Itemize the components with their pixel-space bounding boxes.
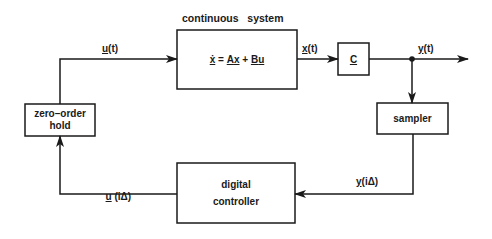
eq-B: B [251, 53, 258, 66]
signal-x-t: x(t) [302, 43, 318, 55]
sampler-label-wrap: sampler [377, 103, 448, 134]
signal-u-t-arg: (t) [108, 43, 118, 54]
signal-y-sampled-arg: (iΔ) [362, 176, 379, 187]
zoh-label-wrap: zero–order hold [25, 104, 95, 136]
controller-label-line2: controller [213, 193, 259, 210]
output-matrix-label-wrap: C [338, 43, 369, 75]
eq-equals: = [215, 53, 226, 66]
eq-plus: + [240, 53, 251, 66]
y-sampled-arrow [295, 134, 413, 194]
output-matrix-label: C [350, 53, 357, 66]
signal-u-sampled-arg: (iΔ) [112, 191, 131, 202]
plant-equation: ẋ = A x + B u [177, 30, 297, 89]
plant-title: continuous system [182, 12, 284, 24]
zoh-label-line2: hold [49, 120, 70, 132]
controller-label-line1: digital [221, 176, 250, 193]
u-t-arrow [60, 59, 177, 104]
sampler-label: sampler [393, 112, 431, 125]
signal-x-t-arg: (t) [308, 43, 318, 54]
signal-u-t: u(t) [102, 43, 118, 55]
branch-point [409, 56, 415, 62]
signal-u-sampled: u (iΔ) [100, 179, 131, 203]
signal-y-t: y(t) [418, 43, 434, 55]
signal-y-t-arg: (t) [424, 43, 434, 54]
controller-label-wrap: digital controller [177, 163, 295, 223]
eq-A: A [227, 53, 234, 66]
signal-y-sampled: y(iΔ) [356, 176, 378, 188]
zoh-label-line1: zero–order [34, 108, 86, 120]
eq-u: u [258, 53, 264, 66]
